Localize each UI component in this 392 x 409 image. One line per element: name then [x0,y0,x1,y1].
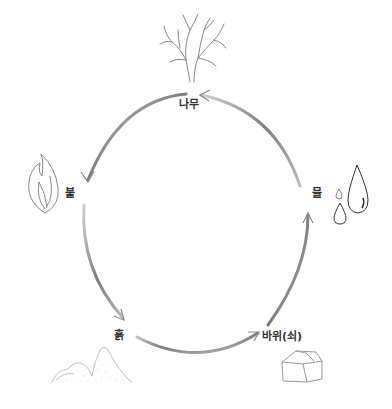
mountain-icon [52,348,132,384]
arrow-fire-to-earth [84,205,124,320]
water-drops-icon [334,165,368,224]
label-metal: 바위(쇠) [262,331,302,343]
rock-icon [282,351,322,382]
label-earth: 흙 [114,330,124,342]
cycle-arrows [0,0,392,409]
label-wood: 나무 [179,99,199,111]
arrow-metal-to-water [268,213,313,325]
five-elements-cycle-diagram: 나무 불 흙 바위(쇠) 물 [0,0,392,409]
label-water: 물 [312,188,322,200]
flame-icon [29,154,59,213]
arrow-water-to-wood [200,90,300,186]
label-fire: 불 [65,188,75,200]
arrow-wood-to-fire [81,94,186,182]
arrow-earth-to-metal [137,332,259,353]
tree-icon [160,14,226,82]
